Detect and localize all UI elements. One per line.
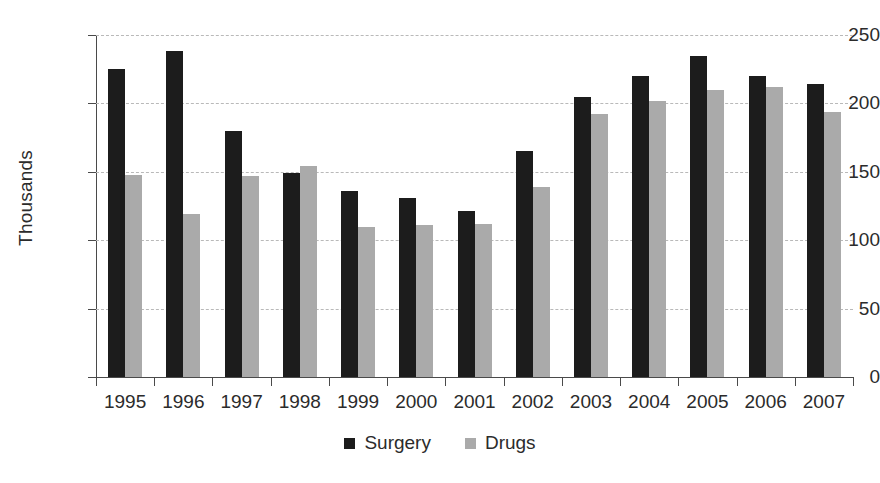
bar-group-2007[interactable] [795, 35, 853, 377]
bar-drugs-1998[interactable] [300, 166, 317, 377]
bar-group-1995[interactable] [96, 35, 154, 377]
legend-swatch-surgery-icon [344, 438, 355, 449]
bar-drugs-2006[interactable] [766, 87, 783, 377]
x-tick-mark-13 [853, 377, 854, 386]
bar-drugs-2000[interactable] [416, 225, 433, 377]
x-tick-mark-2 [212, 377, 213, 386]
bar-drugs-2007[interactable] [824, 112, 841, 377]
bar-group-2006[interactable] [737, 35, 795, 377]
x-tick-mark-3 [271, 377, 272, 386]
x-tick-mark-1 [154, 377, 155, 386]
x-tick-mark-6 [445, 377, 446, 386]
x-tick-label-2005: 2005 [678, 391, 736, 413]
x-tick-label-2003: 2003 [562, 391, 620, 413]
bar-group-2002[interactable] [504, 35, 562, 377]
x-tick-label-1997: 1997 [212, 391, 270, 413]
gridline-0 [96, 377, 853, 378]
bar-group-1999[interactable] [329, 35, 387, 377]
x-tick-mark-4 [329, 377, 330, 386]
bar-group-2003[interactable] [562, 35, 620, 377]
bar-surgery-1996[interactable] [166, 51, 183, 377]
x-tick-label-1995: 1995 [96, 391, 154, 413]
x-tick-label-2000: 2000 [387, 391, 445, 413]
bar-surgery-2006[interactable] [749, 76, 766, 377]
bar-groups [96, 35, 853, 377]
plot-area [96, 35, 853, 377]
legend-item-surgery[interactable]: Surgery [344, 432, 431, 454]
x-tick-label-1999: 1999 [329, 391, 387, 413]
y-axis-title: Thousands [6, 0, 46, 395]
bar-drugs-1996[interactable] [183, 214, 200, 377]
x-tick-label-2001: 2001 [445, 391, 503, 413]
x-tick-mark-7 [504, 377, 505, 386]
x-tick-label-1996: 1996 [154, 391, 212, 413]
bar-drugs-2001[interactable] [475, 224, 492, 377]
x-axis-labels: 1995199619971998199920002001200220032004… [96, 391, 853, 413]
bar-surgery-2007[interactable] [807, 84, 824, 377]
x-tick-label-2006: 2006 [737, 391, 795, 413]
bar-drugs-1995[interactable] [125, 175, 142, 377]
bar-drugs-1999[interactable] [358, 227, 375, 377]
bar-surgery-2005[interactable] [690, 56, 707, 377]
bar-drugs-2003[interactable] [591, 114, 608, 377]
bar-group-1997[interactable] [212, 35, 270, 377]
bar-group-2004[interactable] [620, 35, 678, 377]
bar-surgery-1998[interactable] [283, 173, 300, 377]
x-tick-mark-0 [96, 377, 97, 386]
legend-item-drugs[interactable]: Drugs [465, 432, 536, 454]
bar-surgery-2002[interactable] [516, 151, 533, 377]
x-tick-mark-5 [387, 377, 388, 386]
bar-group-1996[interactable] [154, 35, 212, 377]
legend-label-drugs: Drugs [485, 432, 536, 454]
bar-surgery-2000[interactable] [399, 198, 416, 377]
bar-group-2001[interactable] [445, 35, 503, 377]
x-tick-mark-12 [795, 377, 796, 386]
x-tick-label-2002: 2002 [504, 391, 562, 413]
x-tick-label-2004: 2004 [620, 391, 678, 413]
bar-drugs-1997[interactable] [242, 176, 259, 377]
legend-label-surgery: Surgery [364, 432, 431, 454]
bar-surgery-1999[interactable] [341, 191, 358, 377]
x-tick-mark-8 [562, 377, 563, 386]
bar-surgery-1995[interactable] [108, 69, 125, 377]
x-tick-label-2007: 2007 [795, 391, 853, 413]
bar-drugs-2002[interactable] [533, 187, 550, 377]
y-axis-title-text: Thousands [15, 150, 37, 246]
bar-surgery-1997[interactable] [225, 131, 242, 377]
bar-surgery-2003[interactable] [574, 97, 591, 377]
bar-surgery-2001[interactable] [458, 211, 475, 377]
bar-group-2005[interactable] [678, 35, 736, 377]
bar-chart: Thousands 050100150200250 19951996199719… [0, 0, 880, 483]
x-tick-mark-9 [620, 377, 621, 386]
chart-legend: SurgeryDrugs [0, 432, 880, 454]
x-tick-mark-11 [737, 377, 738, 386]
bar-group-2000[interactable] [387, 35, 445, 377]
bar-drugs-2005[interactable] [707, 90, 724, 377]
x-tick-mark-10 [678, 377, 679, 386]
bar-surgery-2004[interactable] [632, 76, 649, 377]
bar-drugs-2004[interactable] [649, 101, 666, 377]
bar-group-1998[interactable] [271, 35, 329, 377]
x-tick-label-1998: 1998 [271, 391, 329, 413]
legend-swatch-drugs-icon [465, 438, 476, 449]
